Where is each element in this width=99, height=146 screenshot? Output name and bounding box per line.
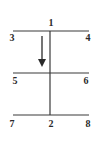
node-label-2: 2 (49, 119, 54, 129)
node-label-4: 4 (86, 33, 91, 43)
node-label-7: 7 (10, 119, 15, 129)
node-label-1: 1 (49, 18, 54, 28)
node-label-6: 6 (84, 76, 89, 86)
node-label-5: 5 (13, 76, 18, 86)
diagram-canvas: 1 3 4 5 6 7 2 8 (0, 0, 99, 146)
node-label-8: 8 (86, 119, 91, 129)
down-arrow-icon (38, 36, 46, 67)
node-label-3: 3 (10, 33, 15, 43)
